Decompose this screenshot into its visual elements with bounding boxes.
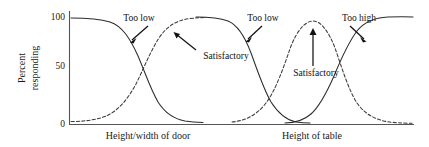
satisfactory-left-arrow-line xyxy=(176,34,196,50)
annotation-satisfactory-right: Satisfactory xyxy=(293,68,339,78)
ergonomics-acceptability-chart: 100 50 0 Percent responding Height/width… xyxy=(0,0,429,147)
annotation-too-low-right: Too low xyxy=(247,13,278,23)
y-axis-title-line1: Percent xyxy=(16,53,27,83)
door-too-low-curve xyxy=(71,18,203,123)
y-tick-label-100: 100 xyxy=(51,12,66,22)
y-axis-title-line2: responding xyxy=(29,46,40,90)
annotation-too-low-left: Too low xyxy=(123,13,154,23)
too-high-arrow-line xyxy=(350,26,364,39)
chart-plot-area: 100 50 0 Percent responding Height/width… xyxy=(0,0,429,147)
annotation-too-high-right: Too high xyxy=(342,13,376,23)
too-low-right-arrow-line xyxy=(248,26,262,39)
annotation-satisfactory-left: Satisfactory xyxy=(203,51,249,61)
satisfactory-left-arrow-head xyxy=(174,32,181,39)
too-low-left-arrow-line xyxy=(132,26,148,40)
satisfactory-right-arrow-head xyxy=(310,28,317,35)
x-axis-title-table: Height of table xyxy=(282,130,343,141)
x-axis-title-door: Height/width of door xyxy=(106,130,191,141)
y-tick-label-50: 50 xyxy=(56,61,66,71)
door-satisfactory-curve xyxy=(71,18,206,122)
y-tick-label-0: 0 xyxy=(60,119,65,129)
